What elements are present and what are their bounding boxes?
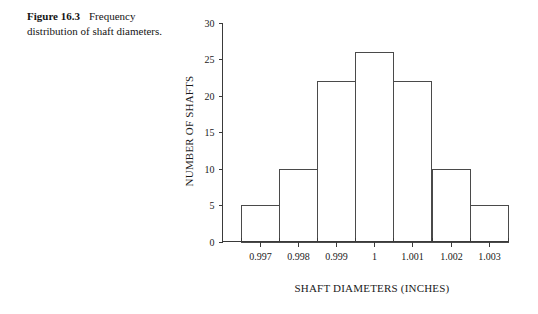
histogram-bar [356, 53, 394, 243]
y-axis-ticks [219, 24, 223, 243]
y-tick-label: 25 [205, 54, 215, 65]
x-tick-label: 0.997 [249, 251, 272, 262]
x-tick-label: 0.998 [287, 251, 310, 262]
y-axis-labels: 051015202530 [205, 18, 215, 248]
x-tick-label: 1.002 [440, 251, 463, 262]
histogram-bar [318, 82, 356, 243]
histogram-bar [280, 170, 318, 243]
y-tick-label: 20 [205, 91, 215, 102]
x-tick-label: 1.001 [401, 251, 424, 262]
y-tick-label: 0 [210, 237, 215, 248]
bars-group [242, 53, 509, 243]
x-tick-label: 1.003 [478, 251, 501, 262]
x-axis-title: SHAFT DIAMETERS (INCHES) [295, 282, 450, 295]
histogram-bar [242, 206, 280, 243]
y-tick-label: 30 [205, 18, 215, 29]
x-tick-label: 1 [372, 251, 377, 262]
y-tick-label: 10 [205, 164, 215, 175]
y-tick-label: 15 [205, 127, 215, 138]
histogram-bar [471, 206, 509, 243]
histogram-bar [394, 82, 432, 243]
histogram-figure: 051015202530 0.9970.9980.99911.0011.0021… [0, 0, 538, 314]
y-tick-label: 5 [210, 200, 215, 211]
x-tick-label: 0.999 [325, 251, 348, 262]
x-axis-labels: 0.9970.9980.99911.0011.0021.003 [249, 251, 501, 262]
histogram-bar [433, 170, 471, 243]
histogram-chart: 051015202530 0.9970.9980.99911.0011.0021… [0, 0, 538, 314]
y-axis-title: NUMBER OF SHAFTS [183, 76, 195, 187]
